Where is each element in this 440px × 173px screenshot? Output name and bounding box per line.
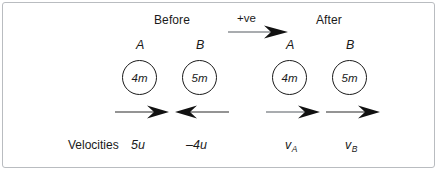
velocity-value-after-b: vB: [345, 139, 357, 152]
velocities-row-label: Velocities: [68, 139, 119, 151]
mass-label-after-b: 5m: [332, 73, 367, 85]
after-heading: After: [316, 14, 342, 26]
body-letter-after-a: A: [286, 39, 294, 52]
physics-collision-diagram: Before +ve After A B A B 4m 5m 4m 5m: [0, 0, 440, 173]
velocity-value-before-b: –4u: [186, 139, 207, 152]
velocity-arrow-after-b-icon: [326, 105, 380, 119]
positive-direction-arrow-icon: [228, 25, 288, 39]
body-letter-after-b: B: [346, 39, 354, 52]
mass-label-before-b: 5m: [182, 73, 217, 85]
mass-label-after-a: 4m: [272, 73, 307, 85]
body-letter-before-b: B: [196, 39, 204, 52]
mass-label-before-a: 4m: [122, 73, 157, 85]
velocity-subscript-after-b: B: [352, 144, 358, 154]
velocity-arrow-before-a-icon: [115, 105, 169, 119]
diagram-frame: [2, 2, 435, 168]
body-letter-before-a: A: [136, 39, 144, 52]
velocity-arrow-after-a-icon: [266, 105, 320, 119]
velocity-value-after-a: vA: [285, 139, 297, 152]
before-heading: Before: [154, 14, 190, 26]
velocity-value-before-a: 5u: [131, 139, 145, 152]
velocity-symbol-after-a: v: [285, 138, 291, 152]
velocity-arrow-before-b-icon: [175, 105, 229, 119]
velocity-subscript-after-a: A: [292, 144, 298, 154]
velocity-symbol-after-b: v: [345, 138, 351, 152]
positive-direction-label: +ve: [237, 13, 256, 25]
